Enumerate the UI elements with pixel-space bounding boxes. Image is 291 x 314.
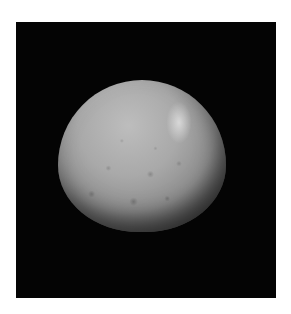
space-background: cratered dwarf planet / moon	[16, 22, 276, 298]
planet-body	[58, 80, 226, 232]
crater-texture	[58, 80, 226, 232]
